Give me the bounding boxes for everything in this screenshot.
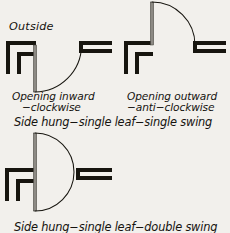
- left-wall-jamb: [124, 41, 153, 74]
- drawing-sheet: Outside Opening inward −clockwise Openin…: [0, 0, 230, 233]
- diagram-opening-inward-clockwise: [6, 41, 112, 92]
- door-symbols-drawing: Outside Opening inward −clockwise Openin…: [0, 0, 230, 233]
- label-outside: Outside: [9, 20, 54, 33]
- caption-group-double-swing: Side hung−single leaf−double swing: [14, 220, 217, 233]
- left-wall-jamb: [5, 168, 35, 201]
- door-leaf: [33, 133, 36, 211]
- left-wall-jamb: [6, 41, 36, 74]
- caption-left-line2: −clockwise: [22, 101, 81, 113]
- diagram-side-hung-double-swing: [5, 133, 112, 211]
- swing-arc: [152, 2, 195, 45]
- right-wall-jamb: [193, 41, 226, 53]
- right-wall-jamb: [76, 168, 112, 180]
- swing-arc: [35, 133, 74, 211]
- door-leaf: [33, 45, 36, 92]
- caption-group-single-swing: Side hung−single leaf−single swing: [14, 115, 212, 129]
- diagram-opening-outward-anti-clockwise: [124, 2, 226, 74]
- caption-right-line2: −anti−clockwise: [127, 101, 215, 113]
- door-leaf: [150, 2, 153, 45]
- swing-arc: [35, 46, 82, 92]
- right-wall-jamb: [79, 41, 112, 53]
